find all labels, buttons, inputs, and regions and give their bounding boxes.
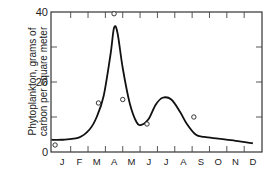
x-tick-label: S <box>198 156 204 167</box>
x-tick-label: D <box>249 156 256 167</box>
observation-point <box>192 115 196 119</box>
x-tick-label: J <box>146 156 151 167</box>
y-tick-label: 0 <box>42 146 48 158</box>
x-tick-label: J <box>164 156 169 167</box>
x-tick-label: M <box>127 156 135 167</box>
x-tick-label: J <box>60 156 65 167</box>
observation-point <box>112 12 116 16</box>
x-tick-label: M <box>93 156 101 167</box>
observation-point <box>53 143 57 147</box>
observation-point <box>121 97 125 101</box>
x-tick-label: A <box>180 156 187 167</box>
x-tick-label: F <box>76 156 82 167</box>
y-tick-label: 20 <box>36 76 48 88</box>
observation-point <box>145 122 149 126</box>
x-tick-label: N <box>232 156 239 167</box>
y-tick-label: 40 <box>36 6 48 18</box>
observation-point <box>96 101 100 105</box>
x-tick-label: O <box>214 156 221 167</box>
x-tick-label: A <box>111 156 118 167</box>
plot-frame <box>51 12 262 152</box>
smoothed-curve-line <box>52 26 253 143</box>
phytoplankton-chart: 02040JFMAMJJASOND <box>0 0 270 171</box>
